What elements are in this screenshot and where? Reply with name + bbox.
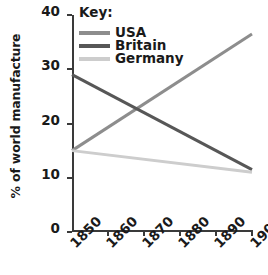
y-tick-label: 10 bbox=[41, 168, 60, 182]
legend-label: Germany bbox=[115, 52, 183, 66]
legend-title: Key: bbox=[79, 6, 191, 20]
legend-swatch-icon bbox=[79, 57, 110, 61]
y-tick-label: 20 bbox=[41, 114, 60, 128]
chart-figure: % of world manufacture 403020100 1850186… bbox=[0, 0, 268, 275]
legend-swatch-icon bbox=[79, 44, 110, 48]
y-tick-label: 30 bbox=[41, 59, 60, 73]
y-axis-title: % of world manufacture bbox=[2, 0, 28, 232]
y-tick-label: 0 bbox=[51, 222, 60, 236]
legend-items: USABritainGermany bbox=[79, 27, 191, 66]
legend: Key: USABritainGermany bbox=[79, 6, 191, 66]
legend-item-germany: Germany bbox=[79, 53, 191, 66]
y-tick-label: 40 bbox=[41, 5, 60, 19]
legend-swatch-icon bbox=[79, 31, 110, 35]
